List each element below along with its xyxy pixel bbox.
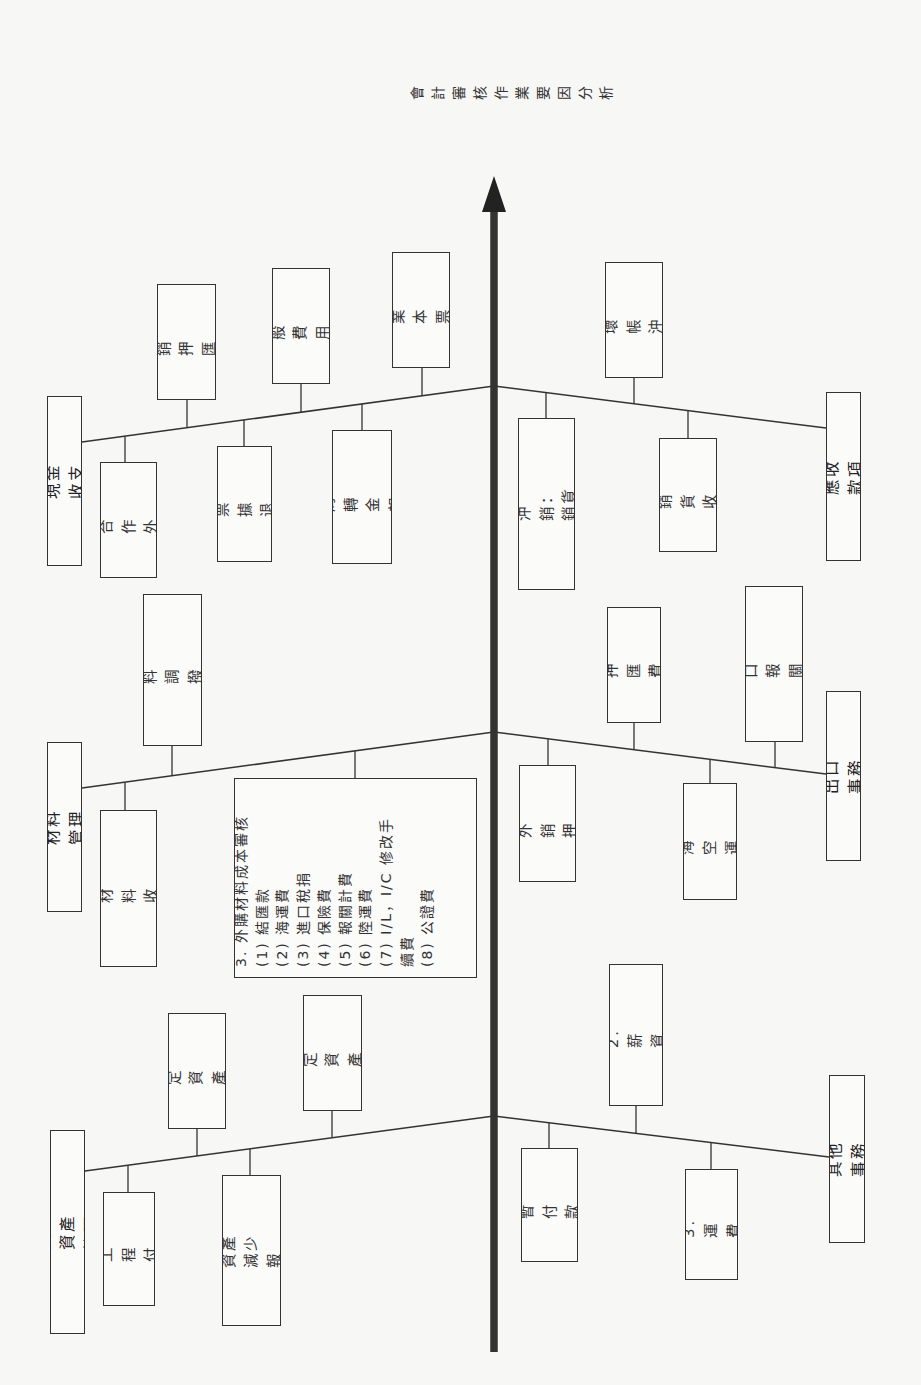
cause-box-material-3: 3. 外購材料成本審核 (1) 結匯款 (2) 海運費 (3) 進口稅捐 (4)… xyxy=(234,778,477,978)
cause-box-material-2-label: 2. 材料調撥交運 xyxy=(143,656,202,685)
cause-box-export-3-label: 3. 海空運費 xyxy=(683,829,737,855)
cause-box-other-2: 2. 薪資 xyxy=(609,964,663,1106)
cause-box-other-1-label: 1. 暫付款項 xyxy=(521,1191,578,1219)
cause-box-fixed-asset-2-label: 2. 固定資產 增加 xyxy=(168,1057,226,1085)
cause-box-export-4: 4. 出口報關計費 xyxy=(745,586,803,742)
cause-box-other-3-label: 3. 運費 xyxy=(685,1212,738,1238)
category-box-cash: 一、現金收支審核 xyxy=(47,396,82,566)
category-box-material: 三、材料管理審核 xyxy=(47,742,82,912)
category-box-receivable: 二、應收款項審核 xyxy=(826,392,861,561)
cause-box-material-1: 1. 內購材料收料 付款 xyxy=(100,810,157,967)
arrow-head-icon xyxy=(482,176,506,212)
cause-box-cash-5: 5. 周轉金報銷 xyxy=(332,430,392,564)
cause-box-export-1: 1. 外銷押匯 xyxy=(519,765,576,882)
cause-box-cash-6: 6. 商業本票 保證 xyxy=(392,252,450,368)
branch-line-cash xyxy=(82,386,494,442)
cause-box-receivable-1-label: 1. 應收帳款沖銷： 銷貨退回與折讓 xyxy=(518,487,575,521)
cause-box-cash-3-label: 3. 票據退延 xyxy=(217,491,272,518)
cause-box-cash-2-label: 2. 外銷押匯 繳款 xyxy=(157,328,216,357)
cause-box-cash-4-label: 4. 一般費用 付款 xyxy=(272,312,330,340)
effect-title-text: 會計審核作業 要因分析 xyxy=(407,80,617,100)
cause-box-export-4-label: 4. 出口報關計費 xyxy=(745,650,803,678)
cause-box-receivable-3-label: 3. 銷貨收入 xyxy=(659,481,717,509)
cause-box-fixed-asset-4: 4. 固定資產 轉移 xyxy=(303,995,362,1111)
cause-box-cash-4: 4. 一般費用 付款 xyxy=(272,268,330,384)
category-box-cash-label: 一、現金收支審核 xyxy=(47,463,82,499)
cause-box-other-3: 3. 運費 xyxy=(685,1169,738,1280)
category-box-material-label: 三、材料管理審核 xyxy=(47,809,82,845)
branch-line-fixed-asset xyxy=(85,1116,494,1171)
category-box-other: 六、其他事務審核 xyxy=(829,1075,865,1243)
cause-box-other-1: 1. 暫付款項 xyxy=(521,1148,578,1262)
cause-box-cash-1: 1. 內銷合作 外銷繳款 xyxy=(100,462,157,578)
cause-box-export-1-label: 1. 外銷押匯 xyxy=(519,810,576,838)
cause-box-cash-6-label: 6. 商業本票 保證 xyxy=(392,296,450,324)
cause-box-fixed-asset-1-label: 1. 工程付款 xyxy=(103,1237,155,1262)
category-box-export-label: 四、出口事務審核 xyxy=(826,758,861,794)
cause-box-fixed-asset-3-label: 3. 固定資產減少 報廢、標售 xyxy=(222,1234,281,1268)
category-box-fixed-asset: 五、固定資產管理審核 xyxy=(50,1130,85,1334)
cause-box-cash-2: 2. 外銷押匯 繳款 xyxy=(157,284,216,400)
cause-box-cash-3: 3. 票據退延 xyxy=(217,446,272,562)
cause-box-export-3: 3. 海空運費 xyxy=(683,783,737,900)
category-box-fixed-asset-label: 五、固定資產管理審核 xyxy=(50,1214,85,1250)
cause-box-other-2-label: 2. 薪資 xyxy=(609,1022,663,1048)
cause-box-material-1-label: 1. 內購材料收料 付款 xyxy=(100,875,157,903)
cause-box-cash-1-label: 1. 內銷合作 外銷繳款 xyxy=(100,506,157,534)
cause-box-receivable-2-label: 2. 壞帳沖銷 xyxy=(605,306,663,334)
cause-box-fixed-asset-2: 2. 固定資產 增加 xyxy=(168,1013,226,1129)
category-box-export: 四、出口事務審核 xyxy=(826,691,861,861)
cause-box-fixed-asset-4-label: 4. 固定資產 轉移 xyxy=(303,1039,362,1068)
cause-box-receivable-2: 2. 壞帳沖銷 xyxy=(605,262,663,378)
category-box-other-label: 六、其他事務審核 xyxy=(829,1141,865,1177)
cause-box-fixed-asset-3: 3. 固定資產減少 報廢、標售 xyxy=(222,1175,281,1326)
effect-title: 會計審核作業 要因分析 xyxy=(492,10,532,170)
category-box-receivable-label: 二、應收款項審核 xyxy=(826,459,861,495)
cause-box-material-2: 2. 材料調撥交運 xyxy=(143,594,202,746)
cause-box-material-3-label: 3. 外購材料成本審核 (1) 結匯款 (2) 海運費 (3) 進口稅捐 (4)… xyxy=(234,815,438,967)
cause-box-receivable-1: 1. 應收帳款沖銷： 銷貨退回與折讓 xyxy=(518,418,575,590)
cause-box-export-2: 2. 押匯費用 xyxy=(607,607,661,723)
cause-box-fixed-asset-1: 1. 工程付款 xyxy=(103,1192,155,1306)
cause-box-export-2-label: 2. 押匯費用 xyxy=(607,652,661,678)
cause-box-cash-5-label: 5. 周轉金報銷 xyxy=(332,483,392,512)
cause-box-receivable-3: 3. 銷貨收入 xyxy=(659,438,717,552)
